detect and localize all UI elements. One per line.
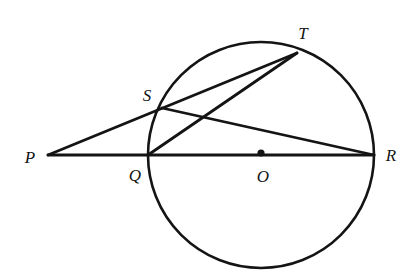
point-label-s: S (143, 87, 152, 104)
point-label-t: T (298, 25, 307, 42)
center-point-marker (257, 149, 264, 156)
point-label-o: O (257, 168, 269, 185)
geometry-figure: P Q O R S T (0, 0, 409, 275)
point-label-p: P (25, 149, 35, 166)
geometry-canvas (0, 0, 409, 275)
segment-SR (162, 108, 374, 155)
point-label-r: R (386, 147, 396, 164)
point-label-q: Q (129, 167, 141, 184)
